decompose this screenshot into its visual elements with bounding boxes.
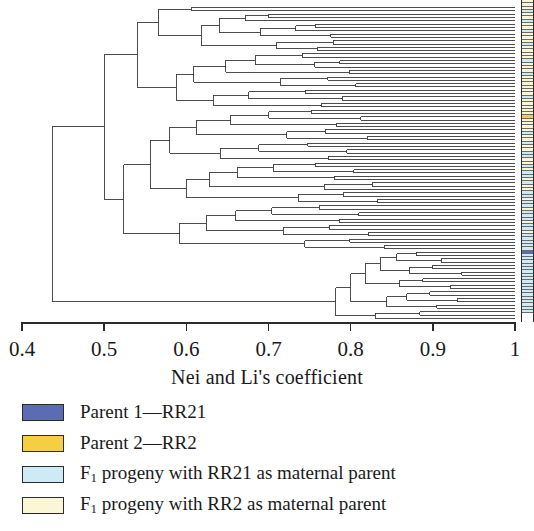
legend-swatch-f1_rr21	[22, 466, 64, 483]
x-axis-tick-label: 0.4	[9, 336, 35, 362]
x-axis	[0, 322, 534, 336]
x-axis-tick-label: 0.7	[255, 336, 281, 362]
dendrogram-tree	[0, 0, 534, 340]
x-axis-title: Nei and Li's coefficient	[0, 366, 534, 389]
dendrogram-plot	[0, 0, 534, 340]
x-axis-tick	[432, 322, 434, 331]
x-axis-tick-label: 1	[510, 336, 521, 362]
x-axis-tick	[514, 322, 516, 331]
x-axis-tick-label: 0.5	[91, 336, 117, 362]
legend: Parent 1—RR21Parent 2—RR2F1 progeny with…	[0, 400, 534, 531]
x-axis-tick-label: 0.8	[338, 336, 364, 362]
legend-swatch-parent1	[22, 404, 64, 421]
x-axis-tick-labels: 0.40.50.60.70.80.91	[0, 336, 534, 364]
legend-label-f1_rr2: F1 progeny with RR2 as maternal parent	[80, 493, 386, 517]
legend-label-f1_rr21: F1 progeny with RR21 as maternal parent	[80, 462, 396, 486]
category-color-strip	[521, 0, 534, 322]
x-axis-tick	[103, 322, 105, 331]
legend-item-f1_rr21: F1 progeny with RR21 as maternal parent	[22, 462, 396, 486]
x-axis-tick-label: 0.9	[420, 336, 446, 362]
x-axis-tick	[350, 322, 352, 331]
category-strip-cell	[522, 310, 533, 313]
legend-label-parent2: Parent 2—RR2	[80, 432, 197, 454]
x-axis-tick	[268, 322, 270, 331]
legend-item-parent2: Parent 2—RR2	[22, 431, 197, 455]
legend-item-parent1: Parent 1—RR21	[22, 400, 206, 424]
x-axis-tick	[186, 322, 188, 331]
legend-swatch-f1_rr2	[22, 497, 64, 514]
legend-label-parent1: Parent 1—RR21	[80, 401, 206, 423]
legend-item-f1_rr2: F1 progeny with RR2 as maternal parent	[22, 493, 386, 517]
x-axis-tick-label: 0.6	[173, 336, 199, 362]
legend-swatch-parent2	[22, 435, 64, 452]
dendrogram-figure: 0.40.50.60.70.80.91 Nei and Li's coeffic…	[0, 0, 534, 531]
x-axis-tick	[21, 322, 23, 331]
